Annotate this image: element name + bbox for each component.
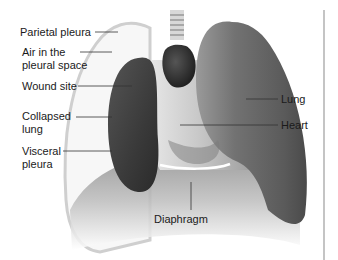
label-visceral-pleura-line2: pleura xyxy=(22,158,53,171)
label-lung: Lung xyxy=(281,93,305,106)
label-air-pleural-space-line2: pleural space xyxy=(22,59,87,72)
label-diaphragm: Diaphragm xyxy=(154,213,208,226)
label-parietal-pleura: Parietal pleura xyxy=(20,26,91,39)
label-collapsed-lung-line1: Collapsed xyxy=(22,110,71,123)
label-collapsed-lung-line2: lung xyxy=(22,123,43,136)
label-wound-site: Wound site xyxy=(22,80,77,93)
label-heart: Heart xyxy=(281,119,308,132)
label-air-pleural-space-line1: Air in the xyxy=(22,46,65,59)
label-visceral-pleura-line1: Visceral xyxy=(22,145,61,158)
trachea xyxy=(170,10,184,40)
frame-edge-divider xyxy=(323,10,325,260)
